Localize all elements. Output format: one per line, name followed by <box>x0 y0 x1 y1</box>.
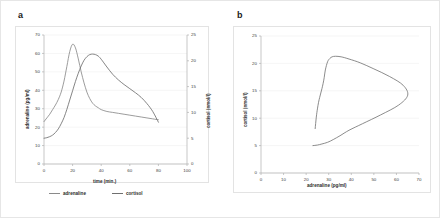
panel-a-x-tick-60: 60 <box>121 168 139 173</box>
panel-a-y-left-tick-0: 0 <box>22 161 40 166</box>
panel-a-y-left-tick-60: 60 <box>22 51 40 56</box>
panel-a-x-tick-100: 100 <box>178 168 196 173</box>
panel-a-y-right-tick-0: 0 <box>191 161 205 166</box>
legend-entry-cortisol: cortisol <box>112 191 143 196</box>
legend-entry-adrenaline: adrenaline <box>49 191 86 196</box>
legend-line-icon-cortisol <box>112 193 123 194</box>
legend-label-adrenaline: adrenaline <box>63 191 86 196</box>
panel-b-x-tick-60: 60 <box>387 177 405 182</box>
panel-b-x-axis-title: adrenaline (pg/ml) <box>307 183 347 188</box>
panel-a-y-left-tick-50: 50 <box>22 69 40 74</box>
panel-b-y-tick-0: 0 <box>240 170 257 175</box>
panel-a-x-axis-title: time (min.) <box>93 179 116 184</box>
panel-b-x-tick-20: 20 <box>297 177 315 182</box>
panel-a-y-right-tick-20: 20 <box>191 58 205 63</box>
legend-label-cortisol: cortisol <box>126 191 143 196</box>
legend-line-icon-adrenaline <box>49 193 60 194</box>
panel-a-x-tick-0: 0 <box>35 168 53 173</box>
panel-b-x-tick-50: 50 <box>365 177 383 182</box>
panel-a-legend: adrenaline cortisol <box>49 191 143 196</box>
panel-b-x-tick-40: 40 <box>342 177 360 182</box>
panel-b-x-tick-10: 10 <box>275 177 293 182</box>
panel-a-y-left-tick-30: 30 <box>22 106 40 111</box>
panel-a-y-left-tick-20: 20 <box>22 125 40 130</box>
panel-b-y-tick-10: 10 <box>240 116 257 121</box>
panel-a-y-right-tick-25: 25 <box>191 32 205 37</box>
panel-b-y-tick-5: 5 <box>240 143 257 148</box>
panel-a-y-left-tick-40: 40 <box>22 88 40 93</box>
panel-b-x-tick-0: 0 <box>252 177 270 182</box>
panel-a: a adrenaline (pg/ml) cortisol (nmol/l) t… <box>1 1 221 218</box>
panel-a-y-left-tick-70: 70 <box>22 32 40 37</box>
panel-b-x-tick-30: 30 <box>320 177 338 182</box>
panel-a-x-tick-40: 40 <box>92 168 110 173</box>
panel-a-y-right-tick-10: 10 <box>191 110 205 115</box>
panel-b-x-tick-70: 70 <box>410 177 428 182</box>
panel-b: b cortisol (nmol/l) adrenaline (pg/ml) 0… <box>221 1 440 218</box>
panel-a-y-right-axis-title: cortisol (nmol/l) <box>206 94 211 128</box>
panel-a-x-tick-80: 80 <box>149 168 167 173</box>
panel-b-y-tick-20: 20 <box>240 61 257 66</box>
panel-a-y-right-tick-15: 15 <box>191 84 205 89</box>
panel-a-y-left-tick-10: 10 <box>22 143 40 148</box>
panel-b-y-tick-15: 15 <box>240 88 257 93</box>
figure-container: a adrenaline (pg/ml) cortisol (nmol/l) t… <box>0 0 440 218</box>
panel-a-y-right-tick-5: 5 <box>191 136 205 141</box>
panel-a-x-tick-20: 20 <box>64 168 82 173</box>
panel-b-y-tick-25: 25 <box>240 33 257 38</box>
panel-b-y-axis-title: cortisol (nmol/l) <box>243 93 248 127</box>
